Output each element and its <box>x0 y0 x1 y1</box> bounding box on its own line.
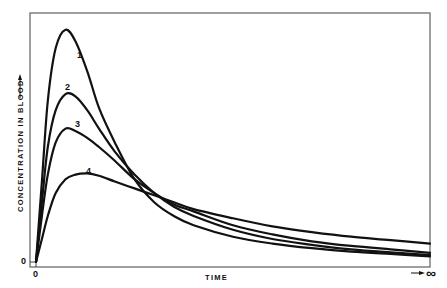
curve-label-2: 2 <box>65 82 70 92</box>
curves-group <box>36 30 430 262</box>
curve-label-3: 3 <box>75 119 80 129</box>
curve-label-4: 4 <box>86 166 91 176</box>
curve-3 <box>36 128 430 262</box>
x-axis-infinity-label: ∞ <box>426 265 436 281</box>
y-axis-arrow-head-icon <box>18 74 22 80</box>
y-axis-title: CONCENTRATION IN BLOOD <box>16 79 25 212</box>
y-tick-label-0: 0 <box>21 256 26 266</box>
curve-label-1: 1 <box>77 50 82 60</box>
concentration-time-chart: 1 2 3 4 0 0 TIME ∞ CONCENTRATION IN BLOO… <box>0 0 447 288</box>
curve-1 <box>36 30 430 262</box>
x-axis-title: TIME <box>205 273 228 282</box>
x-axis-arrow-head-icon <box>419 271 425 275</box>
x-tick-label-0: 0 <box>33 269 38 279</box>
